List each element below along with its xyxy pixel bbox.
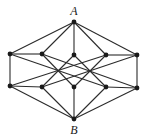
node-Mb bbox=[72, 85, 77, 90]
node-M bbox=[72, 53, 77, 58]
edge-B-L2b bbox=[42, 87, 74, 119]
label-a: A bbox=[69, 4, 78, 18]
node-B bbox=[72, 117, 77, 122]
edge-A-R1 bbox=[74, 22, 137, 55]
node-L1b bbox=[8, 84, 13, 89]
edges-group bbox=[10, 22, 137, 119]
edge-R2b-R1b bbox=[106, 87, 137, 88]
lattice-diagram: A B bbox=[0, 0, 146, 140]
node-R2 bbox=[104, 53, 109, 58]
edge-A-L2 bbox=[42, 22, 74, 54]
edge-B-R1b bbox=[74, 88, 137, 119]
edge-L1b-L2b bbox=[10, 86, 42, 87]
node-R2b bbox=[104, 85, 109, 90]
label-b: B bbox=[70, 123, 78, 137]
node-R1b bbox=[135, 86, 140, 91]
edge-B-R2b bbox=[74, 87, 106, 119]
node-R1 bbox=[135, 53, 140, 58]
node-L2b bbox=[40, 85, 45, 90]
edge-B-L1b bbox=[10, 86, 74, 119]
edge-A-R2 bbox=[74, 22, 106, 55]
edge-A-L1 bbox=[10, 22, 74, 54]
node-A bbox=[72, 20, 77, 25]
node-L2 bbox=[40, 52, 45, 57]
node-L1 bbox=[8, 52, 13, 57]
